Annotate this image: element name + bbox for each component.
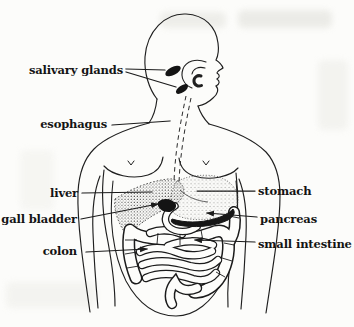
- right-inner-arm-line: [239, 179, 246, 309]
- label-pancreas: pancreas: [260, 212, 317, 227]
- label-colon: colon: [43, 244, 77, 259]
- scanned-page: salivary glands esophagus liver gall bla…: [0, 0, 354, 327]
- body-outline: [78, 14, 280, 316]
- digestive-system-figure: [0, 0, 354, 327]
- leader-esophagus: [112, 121, 170, 125]
- left-inner-arm-line: [93, 176, 100, 308]
- right-nipple-mark: [203, 161, 209, 165]
- neck-back-line: [149, 99, 157, 123]
- label-liver: liver: [50, 186, 78, 201]
- label-small-intestine: small intestine: [258, 237, 352, 252]
- left-pectoral-line: [104, 157, 163, 177]
- esophagus-line: [174, 96, 191, 183]
- submandibular-gland-shape: [174, 82, 189, 96]
- left-nipple-mark: [128, 161, 134, 165]
- label-salivary-glands: salivary glands: [29, 63, 123, 78]
- head-outline: [145, 14, 223, 106]
- leader-salivary-glands-upper: [126, 69, 165, 70]
- label-esophagus: esophagus: [40, 117, 107, 132]
- label-gall-bladder: gall bladder: [1, 212, 77, 227]
- label-stomach: stomach: [258, 184, 311, 199]
- parotid-gland-shape: [164, 63, 183, 78]
- tongue-back-mark: [194, 76, 202, 86]
- mouth-interior: [182, 60, 206, 88]
- neck-front-line: [198, 106, 209, 124]
- sigmoid-rectum-shape: [170, 282, 197, 304]
